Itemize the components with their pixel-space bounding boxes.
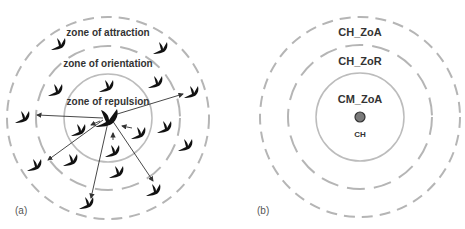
- bird-icon: [63, 154, 77, 166]
- bird-icon: [153, 42, 167, 54]
- bird-icon: [79, 197, 93, 209]
- bird-icon: [178, 139, 192, 151]
- bird-icon: [51, 38, 65, 50]
- bird-icon: [109, 166, 123, 178]
- panel-a-label: (a): [15, 205, 27, 216]
- bird-icon: [148, 76, 162, 88]
- zone-of-orientation-label: zone of orientation: [63, 58, 152, 69]
- bird-icon: [15, 111, 29, 123]
- zone-of-repulsion-label: zone of repulsion: [67, 96, 150, 107]
- bird-icon: [157, 121, 171, 133]
- bird-icon: [184, 86, 198, 98]
- panel-b-label: (b): [257, 205, 269, 216]
- panel-b-ch-zones: CH_ZoA CH_ZoR CM_ZoA CH (b): [257, 17, 460, 217]
- arrow-icon: [122, 126, 132, 128]
- bird-icon: [27, 159, 41, 171]
- zone-of-attraction-label: zone of attraction: [66, 27, 149, 38]
- diagram-canvas: zone of attraction zone of orientation z…: [0, 0, 465, 229]
- arrow-icon: [37, 115, 103, 118]
- ch-zoa-label: CH_ZoA: [338, 26, 381, 38]
- bird-icon: [48, 84, 62, 96]
- ch-zor-label: CH_ZoR: [338, 55, 381, 67]
- bird-icon: [146, 184, 160, 196]
- interaction-arrows: [37, 94, 183, 198]
- arrow-icon: [48, 120, 103, 160]
- panel-a-flocking-zones: zone of attraction zone of orientation z…: [7, 17, 209, 219]
- cm-zoa-label: CM_ZoA: [338, 93, 383, 105]
- cluster-head-node: [355, 112, 365, 122]
- bird-icon: [105, 145, 119, 157]
- bird-icon: [131, 127, 145, 139]
- cluster-head-label: CH: [354, 130, 366, 139]
- bird-icon: [99, 80, 113, 92]
